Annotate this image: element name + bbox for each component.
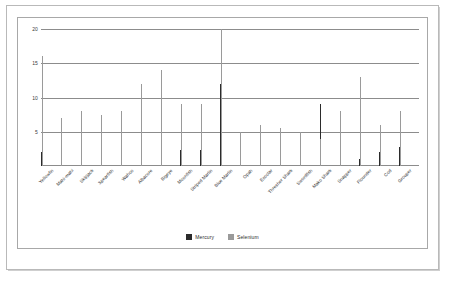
bar-group xyxy=(160,29,180,166)
legend-swatch-icon xyxy=(228,234,234,240)
x-axis-label: Yellowfin xyxy=(38,168,55,185)
x-axis-label: Bigeye xyxy=(160,168,174,182)
legend-item-mercury[interactable]: Mercury xyxy=(186,234,214,240)
bar-group xyxy=(359,29,379,166)
y-axis-tick-label: 5 xyxy=(35,129,38,135)
bar-group xyxy=(320,29,340,166)
legend-label: Selenium xyxy=(237,234,259,240)
plot-frame: 5101520 YellowfinMahi-mahiSkipjackSpearf… xyxy=(17,17,428,249)
x-axis-label: Mahi-mahi xyxy=(55,168,74,187)
bar-group xyxy=(140,29,160,166)
bar-group xyxy=(81,29,101,166)
bar-group xyxy=(300,29,320,166)
y-axis-tick-label: 10 xyxy=(32,95,38,101)
x-axis-label: Mako Shark xyxy=(312,168,333,189)
bar-group xyxy=(379,29,399,166)
x-axis-label: Snapper xyxy=(337,168,353,184)
bar-group xyxy=(280,29,300,166)
bar-group xyxy=(339,29,359,166)
x-axis-label: Cod xyxy=(383,168,393,178)
x-axis-label: Skipjack xyxy=(78,168,94,184)
plot-area: 5101520 xyxy=(41,29,419,166)
bar-group xyxy=(220,29,240,166)
x-axis-labels: YellowfinMahi-mahiSkipjackSpearfishWahoo… xyxy=(41,168,419,222)
bar-group xyxy=(240,29,260,166)
y-axis-tick-label: 20 xyxy=(32,26,38,32)
legend-swatch-icon xyxy=(186,234,192,240)
x-axis-label: Albacore xyxy=(137,168,154,185)
x-axis-label: Swordfish xyxy=(295,168,313,186)
x-axis-label: Flounder xyxy=(356,168,373,185)
bars-layer xyxy=(41,29,419,166)
x-axis-label: Blue Marlin xyxy=(213,168,233,188)
bar-group xyxy=(41,29,61,166)
bar-group xyxy=(399,29,419,166)
y-axis-tick-label: 15 xyxy=(32,60,38,66)
bar-group xyxy=(260,29,280,166)
chart-legend: MercurySelenium xyxy=(18,234,427,240)
x-axis-label: Escolar xyxy=(259,168,274,183)
bar-group xyxy=(180,29,200,166)
bar-group xyxy=(121,29,141,166)
x-axis-label: Wahoo xyxy=(120,168,134,182)
bar-group xyxy=(101,29,121,166)
x-axis-label: Moonfish xyxy=(177,168,194,185)
figure-frame: 5101520 YellowfinMahi-mahiSkipjackSpearf… xyxy=(6,5,439,270)
legend-item-selenium[interactable]: Selenium xyxy=(228,234,259,240)
x-axis-label: Grouper xyxy=(397,168,413,184)
x-axis-label: Spearfish xyxy=(97,168,115,186)
bar-group xyxy=(61,29,81,166)
bar-group xyxy=(200,29,220,166)
legend-label: Mercury xyxy=(195,234,214,240)
x-axis-label: Opah xyxy=(242,168,254,180)
